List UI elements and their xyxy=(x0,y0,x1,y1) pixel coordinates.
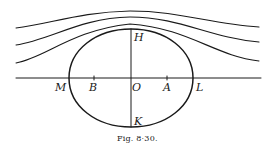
label-b: B xyxy=(88,81,97,94)
figure-diagram: H K M B O A L Fig. 8·30. xyxy=(0,0,274,148)
label-m: M xyxy=(54,81,67,94)
streamline-1 xyxy=(16,11,259,28)
label-l: L xyxy=(195,81,203,94)
label-o: O xyxy=(132,81,141,94)
figure-caption: Fig. 8·30. xyxy=(117,134,158,143)
label-k: K xyxy=(133,115,143,128)
label-a: A xyxy=(162,81,171,94)
label-h: H xyxy=(133,31,144,44)
